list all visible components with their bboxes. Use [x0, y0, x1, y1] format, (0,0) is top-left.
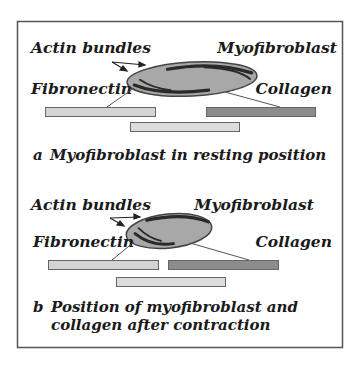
fibronectin-label: Fibronectin — [32, 232, 134, 251]
myofibroblast-label: Myofibroblast — [216, 38, 338, 57]
fibronectin-fiber — [46, 108, 156, 117]
panel-b-caption-line-1: Position of myofibroblast and — [50, 298, 298, 316]
fibronectin-fiber — [49, 261, 159, 270]
myofibroblast-label: Myofibroblast — [193, 195, 315, 214]
middle-fiber — [131, 123, 240, 132]
collagen-label: Collagen — [256, 232, 332, 251]
collagen-fiber — [169, 261, 279, 270]
myofibroblast-cell — [126, 59, 258, 100]
panel-a-caption: Myofibroblast in resting position — [49, 146, 326, 164]
actin-bundles-label: Actin bundles — [29, 195, 151, 214]
collagen-attachment-line — [190, 243, 249, 260]
collagen-label: Collagen — [256, 79, 332, 98]
panel-b-caption-line-2: collagen after contraction — [51, 316, 270, 334]
actin-bundles-label: Actin bundles — [29, 38, 151, 57]
panel-b-caption-letter: b — [33, 298, 44, 316]
collagen-fiber — [207, 108, 316, 117]
panel-b: Actin bundles Myofibroblast Fibronectin … — [29, 195, 332, 334]
panel-a-caption-letter: a — [33, 146, 43, 164]
panel-a: Actin bundles Myofibroblast Fibronectin … — [29, 38, 338, 164]
myofibroblast-contraction-diagram: Actin bundles Myofibroblast Fibronectin … — [0, 0, 363, 369]
middle-fiber — [117, 278, 226, 287]
actin-pointer-arrows-icon — [112, 62, 145, 71]
fibronectin-label: Fibronectin — [30, 79, 132, 98]
